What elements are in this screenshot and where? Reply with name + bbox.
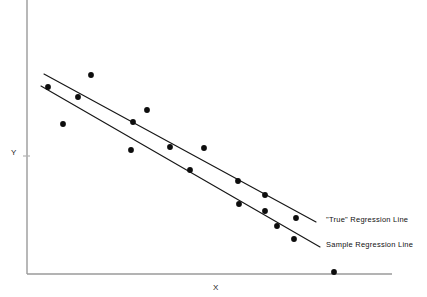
true-regression-line-label: "True" Regression Line: [326, 215, 408, 224]
scatter-point: [235, 178, 241, 184]
scatter-point: [291, 236, 297, 242]
scatter-point: [60, 121, 66, 127]
scatter-point: [45, 84, 51, 90]
scatter-point: [262, 192, 268, 198]
scatter-point: [331, 269, 337, 275]
scatter-point: [144, 107, 150, 113]
scatter-point: [293, 215, 299, 221]
scatter-point: [187, 167, 193, 173]
x-axis-label: X: [213, 283, 219, 292]
scatter-point: [274, 223, 280, 229]
regression-lines-group: [41, 74, 320, 247]
scatter-point: [167, 144, 173, 150]
y-axis-label: Y: [11, 148, 17, 157]
true-regression-line: [44, 74, 316, 222]
scatter-point: [130, 119, 136, 125]
regression-scatter-figure: Y X "True" Regression Line Sample Regres…: [0, 0, 427, 297]
scatter-point: [236, 201, 242, 207]
scatter-point: [88, 72, 94, 78]
scatter-point: [201, 145, 207, 151]
sample-regression-line: [41, 86, 320, 247]
scatter-points-group: [45, 72, 337, 275]
scatter-point: [128, 147, 134, 153]
sample-regression-line-label: Sample Regression Line: [326, 240, 413, 249]
scatter-point: [75, 94, 81, 100]
scatter-point: [262, 208, 268, 214]
axes: [23, 0, 392, 274]
plot-area: [0, 0, 427, 297]
